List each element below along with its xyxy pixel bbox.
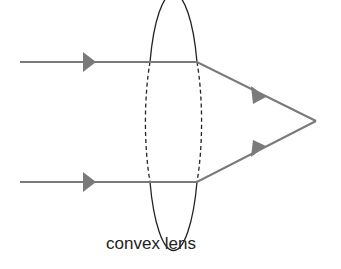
lens-label: convex lens bbox=[0, 234, 302, 254]
top-ray bbox=[20, 62, 316, 121]
light-rays bbox=[20, 62, 316, 182]
convex-lens bbox=[145, 0, 201, 251]
lens-diagram bbox=[0, 0, 341, 269]
top-incoming-arrow-icon bbox=[83, 52, 96, 72]
arrowheads bbox=[83, 52, 266, 192]
bottom-incoming-arrow-icon bbox=[83, 172, 96, 192]
bottom-ray bbox=[20, 121, 316, 182]
